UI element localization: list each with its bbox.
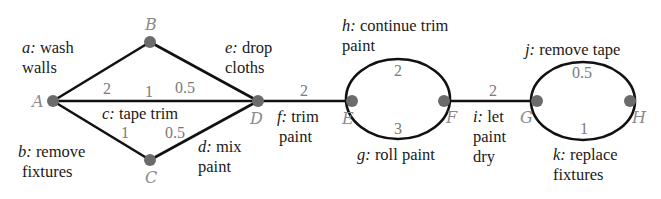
node-B: [144, 36, 156, 48]
node-C: [144, 154, 156, 166]
node-label-D: D: [249, 109, 263, 128]
node-A: [47, 95, 59, 107]
node-F: [438, 95, 450, 107]
weight-b: 1: [121, 124, 129, 141]
task-text-c-line1: tape trim: [115, 104, 178, 123]
task-label-f: f: trim paint: [277, 107, 323, 146]
weight-k: 1: [580, 120, 588, 137]
node-label-G: G: [520, 108, 533, 127]
task-text-k-line1: replace: [566, 145, 618, 164]
task-text-e-line1: drop: [238, 38, 272, 57]
node-D: [252, 95, 264, 107]
weight-c: 1: [145, 83, 153, 100]
task-label-b: b: remove fixtures: [18, 142, 89, 181]
task-text-f-line2: paint: [279, 127, 312, 146]
task-text-b-line1: remove: [32, 142, 86, 161]
weight-j: 0.5: [572, 64, 592, 81]
task-key-e: e:: [225, 38, 238, 57]
task-text-i-line1: let: [483, 107, 504, 126]
task-label-j: j: remove tape: [523, 40, 620, 59]
task-key-a: a:: [22, 38, 36, 57]
task-label-h: h: continue trim paint: [342, 16, 452, 55]
task-label-d: d: mix paint: [198, 137, 246, 176]
node-label-H: H: [631, 108, 647, 127]
task-key-c: c:: [102, 104, 115, 123]
task-text-d-line1: mix: [212, 137, 243, 156]
weight-f: 2: [300, 82, 308, 99]
task-key-f: f:: [277, 107, 287, 126]
node-label-E: E: [341, 109, 354, 128]
weight-h: 2: [394, 62, 402, 79]
task-key-g: g:: [357, 145, 371, 164]
task-text-g-line1: roll paint: [371, 145, 436, 164]
task-label-e: e: drop cloths: [225, 38, 276, 77]
task-text-a-line2: walls: [22, 58, 57, 77]
node-label-C: C: [145, 168, 157, 187]
node-label-F: F: [445, 108, 458, 127]
task-text-k-line2: fixtures: [553, 165, 603, 184]
task-text-f-line1: trim: [287, 107, 319, 126]
task-label-i: i: let paint dry: [473, 107, 510, 166]
task-label-k: k: replace fixtures: [553, 145, 622, 184]
task-key-d: d:: [198, 137, 212, 156]
task-label-a: a: wash walls: [22, 38, 78, 77]
node-H: [624, 95, 636, 107]
task-text-e-line2: cloths: [225, 58, 264, 77]
weight-a: 2: [103, 80, 111, 97]
task-text-d-line2: paint: [198, 157, 231, 176]
task-text-i-line2: paint: [473, 127, 506, 146]
task-key-b: b:: [18, 142, 32, 161]
weight-g: 3: [394, 120, 402, 137]
task-text-h-line2: paint: [342, 36, 375, 55]
task-label-c: c: tape trim: [102, 104, 178, 123]
task-text-i-line3: dry: [473, 147, 496, 166]
node-E: [346, 95, 358, 107]
task-text-j-line1: remove tape: [535, 40, 620, 59]
task-label-g: g: roll paint: [357, 145, 435, 164]
task-key-k: k:: [553, 145, 566, 164]
weight-d: 0.5: [165, 124, 185, 141]
task-text-h-line1: continue trim: [356, 16, 449, 35]
node-label-A: A: [30, 92, 44, 111]
task-key-i: i:: [473, 107, 483, 126]
task-text-b-line2: fixtures: [22, 162, 72, 181]
node-G: [531, 95, 543, 107]
activity-network-diagram: A B C D E F G H 2 0.5 1 1 0.5 2 2 3 2 0.…: [0, 0, 661, 199]
task-key-j: j:: [523, 40, 535, 59]
task-key-h: h:: [342, 16, 356, 35]
node-label-B: B: [144, 15, 157, 34]
task-text-a-line1: wash: [36, 38, 75, 57]
weight-e: 0.5: [175, 79, 195, 96]
weight-i: 2: [489, 82, 497, 99]
